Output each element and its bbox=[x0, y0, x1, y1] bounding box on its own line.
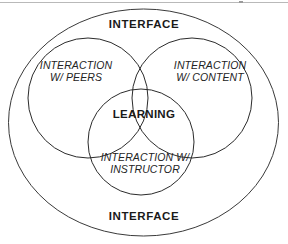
interface-outer-ellipse bbox=[9, 9, 279, 236]
label-interface-top: INTERFACE bbox=[0, 18, 288, 31]
label-interaction-with-content: INTERACTION W/ CONTENT bbox=[160, 60, 260, 84]
circle-interaction-with-instructor bbox=[88, 89, 194, 195]
label-interaction-with-instructor: INTERACTION W/ INSTRUCTOR bbox=[84, 152, 206, 176]
label-interaction-with-peers: INTERACTION W/ PEERS bbox=[28, 60, 124, 84]
venn-diagram-canvas: INTERFACE INTERACTION W/ PEERS INTERACTI… bbox=[0, 0, 288, 244]
venn-diagram-graphic bbox=[0, 0, 288, 244]
label-learning: LEARNING bbox=[0, 108, 288, 121]
label-interface-bottom: INTERFACE bbox=[0, 210, 288, 223]
circle-interaction-with-content bbox=[132, 38, 252, 158]
scan-artifact-speck bbox=[239, 1, 243, 3]
